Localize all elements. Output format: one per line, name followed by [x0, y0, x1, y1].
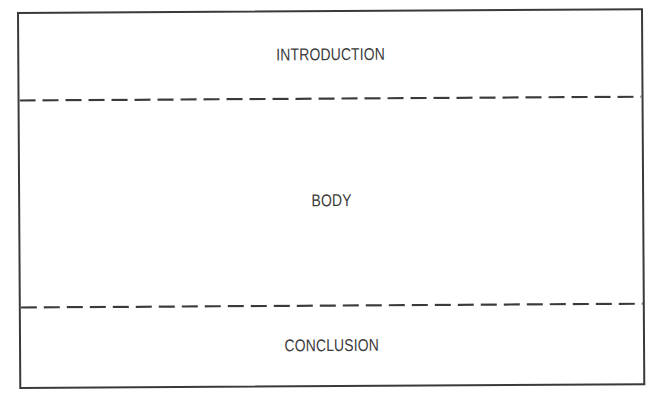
essay-structure-diagram: INTRODUCTION BODY CONCLUSION [0, 0, 657, 400]
section-body: BODY [20, 96, 643, 306]
outline-frame: INTRODUCTION BODY CONCLUSION [17, 8, 645, 389]
section-introduction: INTRODUCTION [19, 10, 642, 100]
conclusion-label: CONCLUSION [285, 335, 380, 356]
body-label: BODY [311, 191, 351, 211]
section-conclusion: CONCLUSION [21, 302, 643, 389]
introduction-label: INTRODUCTION [276, 45, 385, 66]
